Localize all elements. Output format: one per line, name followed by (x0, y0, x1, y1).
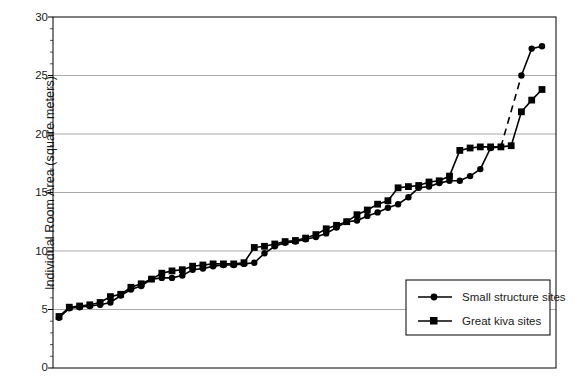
data-point-circle-marker (477, 166, 483, 172)
data-point-circle-marker (374, 209, 380, 215)
data-point-circle-marker (385, 205, 391, 211)
legend-circle-marker-icon (431, 294, 438, 301)
data-point-square-marker (364, 207, 371, 214)
data-point-circle-marker (529, 45, 535, 51)
data-point-square-marker (107, 293, 114, 300)
data-point-circle-marker (354, 217, 360, 223)
data-point-square-marker (395, 184, 402, 191)
data-point-square-marker (241, 259, 248, 266)
data-point-circle-marker (169, 275, 175, 281)
data-point-square-marker (374, 201, 381, 208)
data-point-square-marker (189, 263, 196, 270)
data-point-square-marker (292, 237, 299, 244)
data-point-square-marker (76, 303, 83, 310)
data-point-square-marker (343, 218, 350, 225)
data-point-square-marker (498, 144, 505, 151)
data-point-circle-marker (251, 260, 257, 266)
data-point-square-marker (230, 261, 237, 268)
data-point-square-marker (210, 261, 217, 268)
data-point-square-marker (117, 291, 124, 298)
data-point-square-marker (128, 284, 135, 291)
data-point-square-marker (487, 144, 494, 151)
data-point-square-marker (528, 97, 535, 104)
data-point-square-marker (220, 261, 227, 268)
data-point-square-marker (385, 197, 392, 204)
plot-area: Small structure sites Great kiva sites (0, 0, 574, 382)
data-point-circle-marker (457, 178, 463, 184)
data-point-square-marker (354, 211, 361, 218)
data-point-circle-marker (518, 72, 524, 78)
data-point-square-marker (66, 304, 73, 311)
data-point-circle-marker (467, 173, 473, 179)
data-point-square-marker (446, 173, 453, 180)
y-tick-marks (48, 17, 53, 368)
data-series-layer (56, 43, 546, 321)
data-point-square-marker (508, 142, 515, 149)
gridlines (53, 76, 556, 310)
data-point-square-marker (426, 179, 433, 186)
data-point-square-marker (138, 280, 145, 287)
data-point-circle-marker (261, 250, 267, 256)
data-point-square-marker (148, 276, 155, 283)
data-point-circle-marker (107, 299, 113, 305)
data-point-square-marker (539, 86, 546, 93)
data-point-square-marker (169, 268, 176, 275)
legend: Small structure sites Great kiva sites (406, 280, 566, 335)
data-point-square-marker (179, 266, 186, 273)
data-point-square-marker (97, 299, 104, 306)
data-point-square-marker (436, 177, 443, 184)
data-point-square-marker (313, 231, 320, 238)
data-point-circle-marker (395, 201, 401, 207)
data-point-square-marker (271, 241, 278, 248)
data-point-square-marker (467, 145, 474, 152)
data-point-square-marker (56, 313, 63, 320)
data-point-square-marker (333, 222, 340, 229)
data-point-square-marker (323, 225, 330, 232)
data-point-circle-marker (539, 43, 545, 49)
data-point-square-marker (405, 183, 412, 190)
data-point-square-marker (200, 262, 207, 269)
legend-label-great-kiva-sites: Great kiva sites (462, 315, 541, 327)
data-point-square-marker (415, 182, 422, 189)
legend-square-marker-icon (430, 317, 438, 325)
data-point-square-marker (282, 238, 289, 245)
data-point-square-marker (456, 147, 463, 154)
data-point-square-marker (477, 144, 484, 151)
data-point-circle-marker (364, 213, 370, 219)
data-point-circle-marker (179, 272, 185, 278)
data-point-square-marker (86, 301, 93, 308)
chart-container: Individual Room Area (square meters) 30 … (0, 0, 574, 382)
data-point-circle-marker (405, 194, 411, 200)
data-point-square-marker (261, 243, 268, 250)
data-point-square-marker (158, 270, 165, 277)
data-point-square-marker (302, 235, 309, 242)
data-point-square-marker (518, 108, 525, 115)
legend-label-small-structure-sites: Small structure sites (462, 291, 566, 303)
series-small-structure-sites (56, 43, 545, 321)
data-point-square-marker (251, 244, 258, 251)
